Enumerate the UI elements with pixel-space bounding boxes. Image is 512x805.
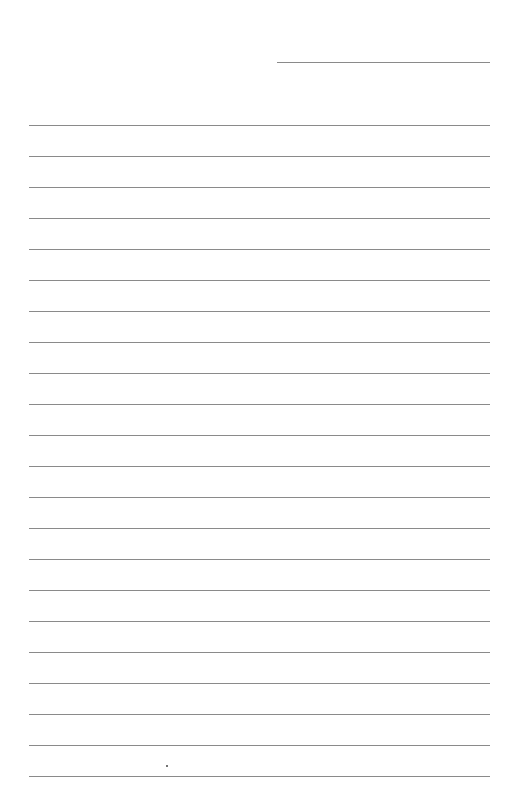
- ruled-line: [29, 466, 490, 467]
- ruled-line: [29, 683, 490, 684]
- ruled-line: [29, 311, 490, 312]
- ruled-line: [29, 745, 490, 746]
- ruled-line: [29, 621, 490, 622]
- ruled-line: [29, 125, 490, 126]
- ruled-line: [29, 342, 490, 343]
- ruled-line: [29, 652, 490, 653]
- ruled-line: [29, 280, 490, 281]
- ruled-line: [29, 249, 490, 250]
- ruled-line: [29, 187, 490, 188]
- ruled-line: [29, 404, 490, 405]
- ruled-line: [29, 528, 490, 529]
- ruled-line: [29, 156, 490, 157]
- ruled-line: [29, 714, 490, 715]
- ruled-line: [29, 590, 490, 591]
- ruled-line: [29, 559, 490, 560]
- ruled-line: [29, 435, 490, 436]
- ruled-line: [29, 373, 490, 374]
- header-name-line: [277, 62, 490, 63]
- stray-mark: [166, 765, 168, 767]
- ruled-line: [29, 218, 490, 219]
- ruled-line: [29, 776, 490, 777]
- ruled-line: [29, 497, 490, 498]
